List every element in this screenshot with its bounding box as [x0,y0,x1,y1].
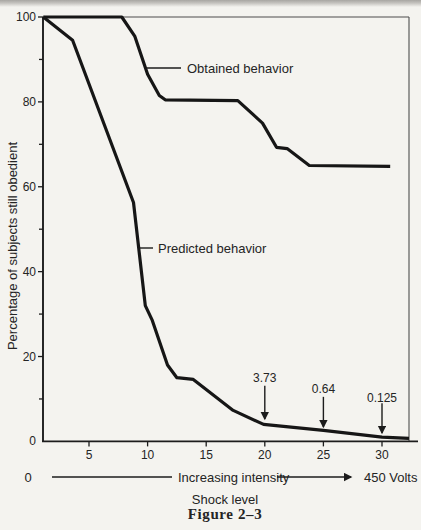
y-tick-label: 0 [29,434,36,448]
x-tick-label: 25 [317,448,331,462]
obedience-chart: 020406080100510152025303.730.640.125 Per… [0,0,421,530]
x-tick-label: 30 [375,448,389,462]
figure-caption: Figure 2–3 [188,506,262,522]
annotation-value-label: 3.73 [253,371,277,385]
y-tick-label: 40 [23,265,37,279]
predicted-series-label: Predicted behavior [158,241,267,256]
obtained-behavior-curve [43,17,390,166]
y-tick-label: 20 [23,350,37,364]
volts-start-label: 0 [24,470,31,485]
annotation-value-label: 0.64 [312,382,336,396]
scanned-book-page: 020406080100510152025303.730.640.125 Per… [0,0,421,530]
x-tick-label: 5 [86,448,93,462]
obtained-series-label: Obtained behavior [187,61,294,76]
y-tick-label: 100 [16,10,36,24]
y-tick-label: 80 [23,95,37,109]
x-tick-label: 20 [258,448,272,462]
predicted-behavior-curve [43,17,409,438]
x-tick-label: 10 [141,448,155,462]
plot-area: 020406080100510152025303.730.640.125 [16,10,418,462]
x-axis-title: Shock level [192,492,259,507]
x-tick-label: 15 [200,448,214,462]
y-tick-label: 60 [23,180,37,194]
volts-end-label: 450 Volts [364,470,418,485]
annotation-value-label: 0.125 [367,391,397,405]
increasing-intensity-label: Increasing intensity [178,470,290,485]
y-axis-title: Percentage of subjects still obedient [5,142,20,351]
